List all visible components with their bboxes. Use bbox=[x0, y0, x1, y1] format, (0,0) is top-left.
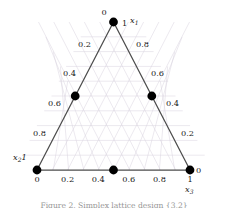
bottom-tick: 0.4 bbox=[92, 174, 105, 184]
figure-caption: Figure 2. Simplex lattice design {3,2} bbox=[0, 200, 228, 208]
left-edge-tick: 0.8 bbox=[33, 128, 46, 138]
bottom-tick: 0.6 bbox=[122, 174, 135, 184]
ternary-plot-figure: 0 1 x1 x21 0 1 x3 0.2 0.4 0.6 0.8 0.8 0.… bbox=[0, 0, 228, 208]
axis-label-x2: x21 bbox=[13, 152, 27, 163]
right-edge-tick: 0.4 bbox=[166, 98, 179, 108]
right-vertex-one-label: 1 bbox=[187, 174, 192, 184]
left-edge-tick: 0.2 bbox=[78, 39, 91, 49]
design-point[interactable] bbox=[109, 166, 118, 175]
top-vertex-zero-label: 0 bbox=[101, 7, 106, 17]
right-edge-tick: 0.8 bbox=[136, 39, 149, 49]
design-point[interactable] bbox=[109, 18, 118, 27]
design-point[interactable] bbox=[71, 92, 80, 101]
right-edge-ticks: 0.8 0.6 0.4 0.2 bbox=[136, 39, 194, 138]
left-edge-tick: 0.4 bbox=[63, 68, 76, 78]
bottom-tick: 0.2 bbox=[61, 174, 74, 184]
bottom-tick: 0 bbox=[34, 174, 39, 184]
axis-label-x1: x1 bbox=[130, 15, 138, 26]
left-edge-tick: 0.6 bbox=[48, 98, 61, 108]
right-edge-tick: 0.6 bbox=[151, 68, 164, 78]
bottom-axis-ticks: 0 0.2 0.4 0.6 0.8 bbox=[34, 174, 166, 184]
simplex-grid bbox=[22, 22, 204, 170]
axis-label-x3: x3 bbox=[185, 184, 194, 195]
design-point[interactable] bbox=[147, 92, 156, 101]
ternary-diagram: 0 1 x1 x21 0 1 x3 0.2 0.4 0.6 0.8 0.8 0.… bbox=[0, 0, 228, 208]
right-edge-tick: 0.2 bbox=[181, 128, 194, 138]
right-vertex-zero-label: 0 bbox=[196, 165, 201, 175]
top-vertex-one-label: 1 bbox=[122, 18, 127, 28]
bottom-tick: 0.8 bbox=[153, 174, 166, 184]
